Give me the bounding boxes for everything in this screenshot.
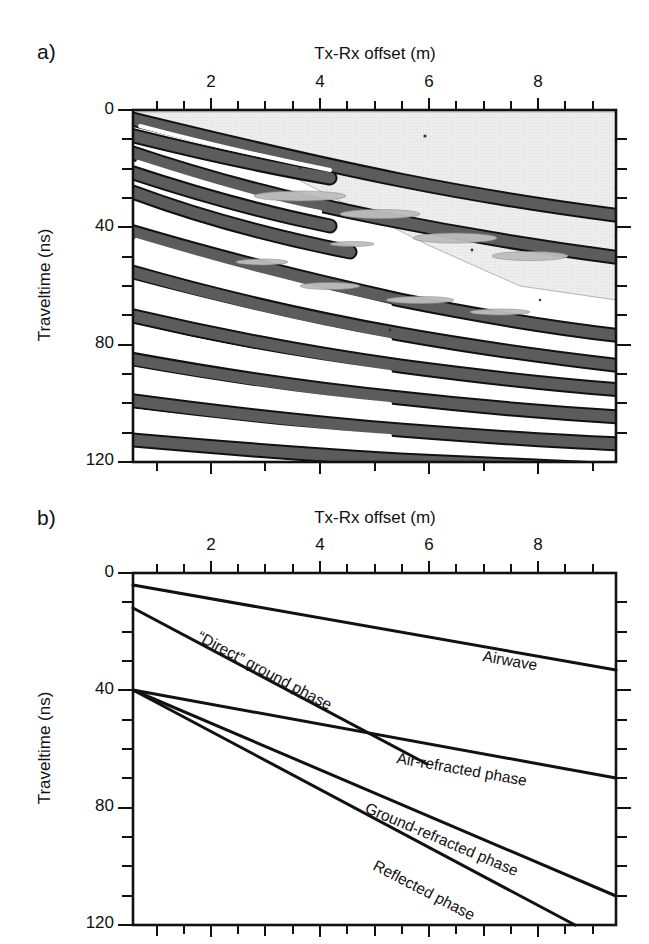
panel-b-yticks-left [118, 573, 133, 925]
figure-root: a) Tx-Rx offset (m) Traveltime (ns) 2 4 … [0, 0, 649, 944]
panel-b-xticks-top [157, 561, 593, 573]
panel-b-yticks-right [616, 602, 631, 896]
panel-b-plot: Airwave “Direct” ground phase Air-refrac… [0, 0, 649, 944]
panel-b-xticks-bottom [157, 925, 593, 937]
